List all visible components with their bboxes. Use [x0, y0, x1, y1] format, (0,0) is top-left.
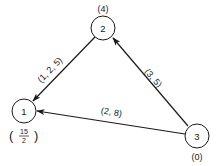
node-2-label: 2: [100, 23, 105, 34]
node-1-annotation: ( 15 2 ): [9, 128, 38, 144]
fraction-denominator: 2: [22, 137, 26, 144]
node-1-label: 1: [21, 106, 26, 117]
edge-3-to-1: (2, 8): [37, 105, 185, 134]
node-3-annotation: (0): [192, 152, 203, 162]
fraction-numerator: 15: [20, 128, 28, 135]
edge-3-to-2: (3, 5): [113, 38, 188, 126]
edge-2-to-1: (1, 2, 5): [33, 37, 95, 101]
node-3: 3 (0): [185, 124, 209, 162]
node-2: 2 (4): [91, 4, 115, 40]
graph-canvas: (1, 2, 5) (3, 5) (2, 8) 1 ( 15 2 ) 2 (4)…: [0, 0, 219, 166]
node-2-annotation: (4): [98, 4, 109, 14]
edge-label-2-1: (1, 2, 5): [35, 55, 64, 84]
paren-left: (: [9, 128, 14, 143]
edge-label-3-1: (2, 8): [100, 105, 122, 118]
node-3-label: 3: [194, 131, 199, 142]
node-1: 1: [12, 99, 36, 123]
paren-right: ): [34, 128, 38, 143]
